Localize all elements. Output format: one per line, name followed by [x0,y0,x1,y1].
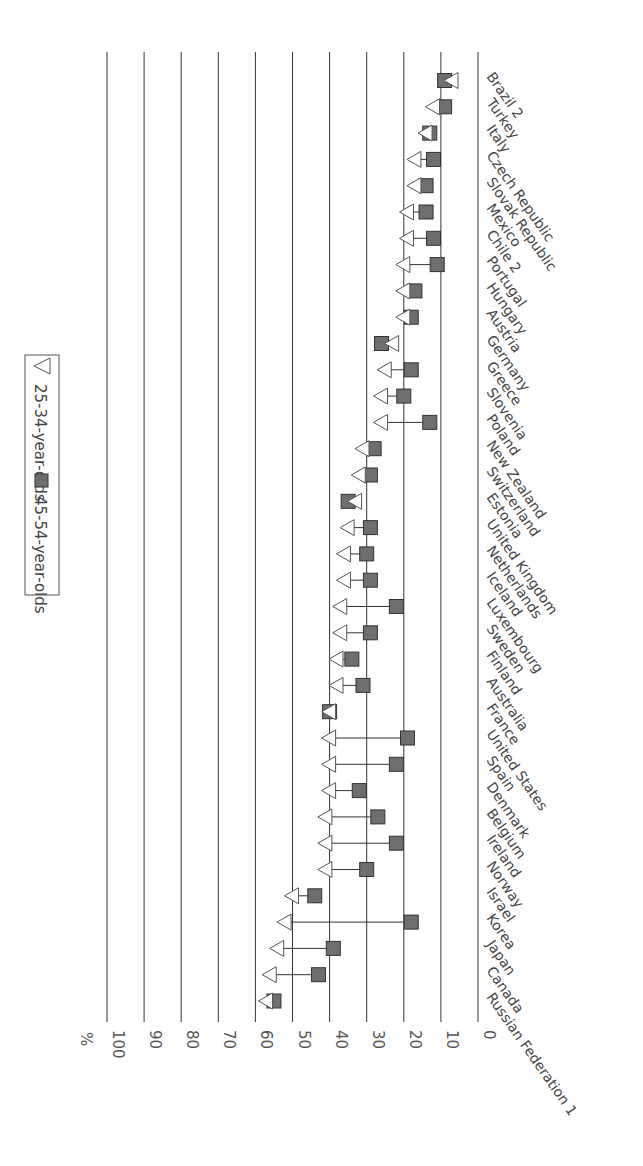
legend-square-icon [35,474,48,487]
triangle-marker-25-34 [318,835,332,851]
data-row [318,835,403,851]
triangle-marker-25-34 [322,783,336,799]
tick-label: 60 [257,1030,275,1049]
triangle-marker-25-34 [333,599,347,615]
square-marker-45-54 [363,573,377,587]
tick-label: 90 [146,1030,164,1049]
triangle-marker-25-34 [425,99,439,115]
data-row [374,388,411,404]
data-row [322,783,367,799]
square-marker-45-54 [404,915,418,929]
data-row [333,625,378,641]
data-row [285,888,322,904]
square-marker-45-54 [371,810,385,824]
tick-label: 50 [295,1030,313,1049]
square-marker-45-54 [389,836,403,850]
square-marker-45-54 [426,231,440,245]
tick-label: 70 [220,1030,238,1049]
data-row [396,283,422,299]
square-marker-45-54 [363,521,377,535]
data-row [341,493,361,509]
square-marker-45-54 [360,863,374,877]
square-marker-45-54 [356,678,370,692]
triangle-marker-25-34 [396,283,410,299]
tick-label: 100 [109,1030,127,1059]
triangle-marker-25-34 [329,677,343,693]
square-marker-45-54 [430,258,444,272]
data-row [375,336,399,352]
square-marker-45-54 [345,652,359,666]
legend-label-45-54: 45-54-year-olds [31,496,49,614]
triangle-marker-25-34 [318,809,332,825]
square-marker-45-54 [363,626,377,640]
triangle-marker-25-34 [396,257,410,273]
triangle-marker-25-34 [396,309,410,325]
triangle-marker-25-34 [400,204,414,220]
data-row [322,704,337,720]
data-row [355,441,381,457]
data-points [259,73,459,1010]
square-marker-45-54 [389,757,403,771]
data-row [322,756,404,772]
data-row [400,230,441,246]
gridlines [107,52,478,1022]
triangle-marker-25-34 [407,151,421,167]
data-row [318,862,374,878]
tick-label: 0 [480,1030,498,1040]
value-axis: 0102030405060708090100% [77,1030,498,1059]
data-row [340,520,377,536]
tick-label: 20 [406,1030,424,1049]
data-row [277,914,418,930]
data-row [333,599,404,615]
data-row [396,257,444,273]
data-row [351,467,377,483]
dot-range-chart: 0102030405060708090100% Russian Federati… [0,0,643,1166]
triangle-marker-25-34 [333,625,347,641]
triangle-marker-25-34 [262,967,276,983]
data-row [377,362,418,378]
data-row [407,178,433,194]
triangle-marker-25-34 [259,993,273,1009]
tick-label: 10 [443,1030,461,1049]
triangle-marker-25-34 [355,441,369,457]
triangle-marker-25-34 [351,467,365,483]
square-marker-45-54 [419,205,433,219]
square-marker-45-54 [397,389,411,403]
triangle-marker-25-34 [277,914,291,930]
triangle-marker-25-34 [322,730,336,746]
square-marker-45-54 [389,600,403,614]
data-row [336,546,373,562]
square-marker-45-54 [352,784,366,798]
triangle-marker-25-34 [329,651,343,667]
square-marker-45-54 [311,968,325,982]
data-row [262,967,325,983]
data-row [329,677,370,693]
legend: 25-34-year-olds45-54-year-olds [25,355,59,614]
data-row [396,309,418,325]
triangle-marker-25-34 [336,572,350,588]
triangle-marker-25-34 [400,230,414,246]
data-row [270,940,341,956]
tick-label: 30 [369,1030,387,1049]
triangle-marker-25-34 [340,520,354,536]
data-row [374,414,437,430]
triangle-marker-25-34 [318,862,332,878]
data-row [418,125,437,141]
triangle-marker-25-34 [270,940,284,956]
data-row [318,809,385,825]
square-marker-45-54 [326,941,340,955]
country-label: Russian Federation 1 [484,990,581,1119]
data-row [438,73,458,89]
tick-label: 40 [332,1030,350,1049]
square-marker-45-54 [360,547,374,561]
triangle-marker-25-34 [336,546,350,562]
data-row [336,572,377,588]
data-row [329,651,359,667]
triangle-marker-25-34 [374,414,388,430]
data-row [407,151,441,167]
triangle-marker-25-34 [374,388,388,404]
square-marker-45-54 [308,889,322,903]
square-marker-45-54 [423,415,437,429]
country-labels: Russian Federation 1CanadaJapanKoreaIsra… [483,69,581,1118]
unit-label: % [77,1032,95,1046]
